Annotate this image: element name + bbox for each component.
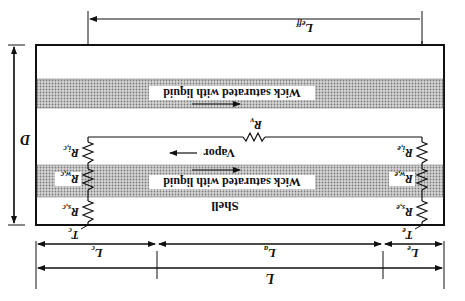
label-l-a: La [264,244,277,261]
svg-text:D: D [20,132,31,147]
pipe-outline [36,45,444,225]
svg-text:Leff: Leff [295,19,314,36]
dimension-d: D [8,45,31,225]
shell-label: Shell [211,199,239,214]
svg-text:Wick saturated with liquid: Wick saturated with liquid [163,86,301,100]
label-l-c: Lc [91,244,104,261]
dimension-l-eff: Leff [88,11,422,45]
svg-text:Wick saturated with liquid: Wick saturated with liquid [163,175,301,189]
vapor-label: Vapor [203,146,235,160]
label-l: L [266,271,276,286]
label-t-e: Te [402,226,413,242]
temperature-labels: Te Tc [68,225,422,242]
label-l-e: Le [407,244,420,261]
heat-pipe-diagram: Wick saturated with liquid Wick saturate… [0,0,465,301]
label-t-c: Tc [68,226,79,242]
dimension-sections: Le La Lc L [36,241,444,289]
